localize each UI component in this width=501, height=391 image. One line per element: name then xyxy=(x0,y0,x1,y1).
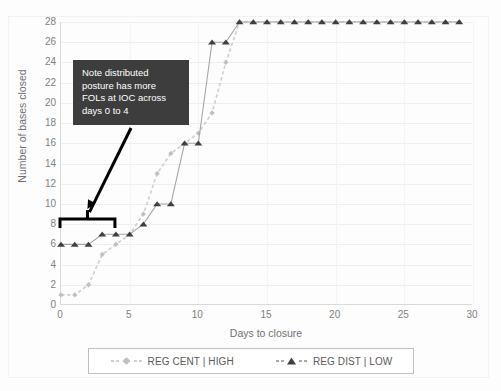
legend-label-reg-cent-high: REG CENT | HIGH xyxy=(148,356,234,367)
y-axis-tick: 2 xyxy=(22,280,56,290)
triangle-marker-icon xyxy=(275,355,309,367)
legend-label-reg-dist-low: REG DIST | LOW xyxy=(313,356,392,367)
x-axis-tick: 15 xyxy=(251,310,281,320)
series-reg-dist-low xyxy=(57,19,463,246)
gridline-vertical xyxy=(473,22,474,304)
x-axis-title: Days to closure xyxy=(60,327,472,339)
legend-item-reg-cent-high[interactable]: REG CENT | HIGH xyxy=(110,355,234,367)
x-axis-tick: 10 xyxy=(182,310,212,320)
legend-item-reg-dist-low[interactable]: REG DIST | LOW xyxy=(275,355,392,367)
note-callout-text: Note distributed posture has more FOLs a… xyxy=(82,67,181,117)
y-axis-tick: 4 xyxy=(22,260,56,270)
note-callout: Note distributed posture has more FOLs a… xyxy=(73,60,189,125)
y-axis-tick: 6 xyxy=(22,239,56,249)
gridline-horizontal xyxy=(61,305,472,306)
chart-figure: 0246810121416182022242628 051015202530 N… xyxy=(0,0,501,391)
x-axis-tick: 20 xyxy=(320,310,350,320)
series-line xyxy=(61,22,459,244)
data-point-marker xyxy=(223,60,228,65)
x-axis-tick: 25 xyxy=(388,310,418,320)
data-point-marker xyxy=(155,171,160,176)
y-axis-tick: 0 xyxy=(22,300,56,310)
data-point-marker xyxy=(139,221,147,226)
x-axis-tick: 0 xyxy=(45,310,75,320)
y-axis-title: Number of bases closed xyxy=(16,26,28,226)
chart-legend: REG CENT | HIGH REG DIST | LOW xyxy=(88,348,414,374)
data-point-marker xyxy=(72,292,77,297)
data-point-marker xyxy=(209,110,214,115)
data-point-marker xyxy=(86,282,91,287)
x-axis-tick: 30 xyxy=(457,310,487,320)
diamond-marker-icon xyxy=(110,355,144,367)
data-point-marker xyxy=(58,292,63,297)
x-axis-tick-labels: 051015202530 xyxy=(60,310,472,324)
x-axis-tick: 5 xyxy=(114,310,144,320)
